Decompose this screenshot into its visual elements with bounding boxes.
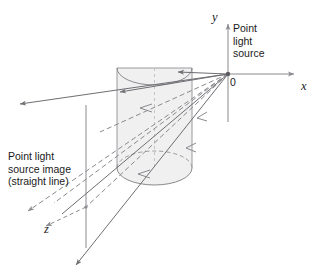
point-light-source-label: Point light source [233, 22, 265, 60]
image-line-node-marker [84, 205, 87, 208]
origin-label: 0 [230, 76, 236, 89]
ray-dashed-right-arrowhead [197, 112, 207, 121]
light-source-cylinder-diagram: Point light source Point light source im… [0, 0, 322, 277]
source-image-label: Point light source image (straight line) [8, 150, 71, 188]
y-axis-label: y [212, 11, 218, 24]
z-axis-label: z [44, 223, 49, 236]
x-axis-label: x [301, 80, 307, 93]
z-axis [46, 207, 86, 226]
